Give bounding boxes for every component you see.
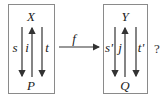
label-i: i — [25, 40, 29, 55]
label-f: f — [72, 31, 78, 46]
object-p: P — [26, 78, 35, 93]
morphism-diagram: X P s i t f Y Q s' j t' ? — [0, 0, 165, 102]
left-box: X P s i t — [9, 5, 55, 94]
question-mark: ? — [154, 41, 160, 56]
label-s-prime: s' — [105, 40, 113, 55]
object-q: Q — [120, 78, 130, 93]
label-j: j — [116, 40, 122, 55]
label-s: s — [12, 40, 17, 55]
object-x: X — [26, 9, 36, 24]
object-y: Y — [121, 9, 130, 24]
right-box: Y Q s' j t' — [104, 5, 148, 94]
label-t-prime: t' — [138, 40, 145, 55]
connector-f: f — [59, 31, 99, 47]
label-t: t — [45, 40, 49, 55]
